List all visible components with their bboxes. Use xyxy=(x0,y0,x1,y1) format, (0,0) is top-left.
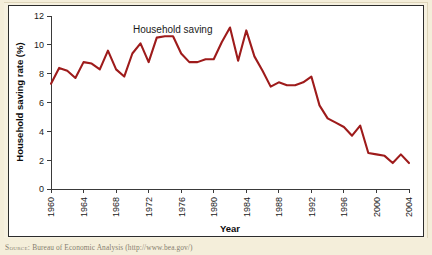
x-tick-label: 1972 xyxy=(144,197,154,217)
x-tick-label: 2000 xyxy=(372,197,382,217)
y-tick-label: 2 xyxy=(39,156,44,166)
source-note-label: Source: xyxy=(5,243,30,252)
x-tick-label: 1988 xyxy=(274,197,284,217)
x-tick-label: 1968 xyxy=(111,197,121,217)
series-annotation-label: Household saving xyxy=(133,24,213,35)
x-tick-label: 1976 xyxy=(177,197,187,217)
plate-top-rule xyxy=(4,2,428,3)
plate-right-rule xyxy=(427,2,428,238)
line-chart: 024681012 196019641968197219761980198419… xyxy=(9,6,423,236)
source-note-text: Bureau of Economic Analysis (http://www.… xyxy=(32,243,192,252)
x-tick-label: 1992 xyxy=(307,197,317,217)
x-tick-label: 1984 xyxy=(242,197,252,217)
figure-page: 024681012 196019641968197219761980198419… xyxy=(0,0,432,255)
y-tick-label: 10 xyxy=(34,40,44,50)
y-tick-label: 0 xyxy=(39,184,44,194)
y-tick-label: 8 xyxy=(39,69,44,79)
x-axis-title: Year xyxy=(220,223,240,234)
y-axis-ticks: 024681012 xyxy=(34,11,51,194)
chart-card: 024681012 196019641968197219761980198419… xyxy=(8,5,424,237)
x-tick-label: 2004 xyxy=(404,197,414,217)
x-tick-label: 1964 xyxy=(79,197,89,217)
x-tick-label: 1980 xyxy=(209,197,219,217)
y-tick-label: 12 xyxy=(34,11,44,21)
y-axis-title: Household saving rate (%) xyxy=(14,42,25,161)
y-tick-label: 6 xyxy=(39,98,44,108)
x-tick-label: 1960 xyxy=(46,197,56,217)
x-axis-ticks: 1960196419681972197619801984198819921996… xyxy=(46,189,414,217)
x-tick-label: 1996 xyxy=(339,197,349,217)
y-tick-label: 4 xyxy=(39,127,44,137)
source-note: Source: Bureau of Economic Analysis (htt… xyxy=(5,243,335,252)
series-household-saving xyxy=(51,28,409,164)
